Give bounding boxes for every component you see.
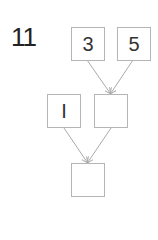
bottom-box[interactable] xyxy=(71,163,105,197)
top-right-box: 5 xyxy=(117,27,151,61)
middle-right-box[interactable] xyxy=(94,94,128,128)
middle-left-box[interactable]: I xyxy=(47,94,81,128)
top-left-box: 3 xyxy=(71,27,105,61)
